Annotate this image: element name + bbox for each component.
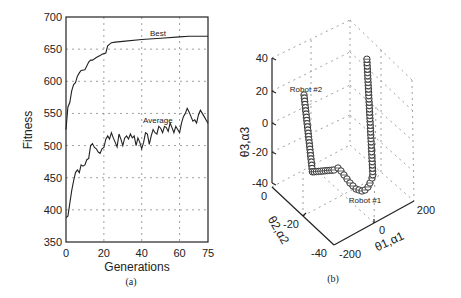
panel-a-y-ticks: 350400450500550600650700 [44, 11, 62, 248]
z-tick-40: 40 [256, 52, 268, 64]
figure: 350400450500550600650700 020406075 Best … [0, 0, 461, 298]
svg-text:40: 40 [136, 247, 148, 259]
average-annotation: Average [143, 116, 173, 125]
svg-text:550: 550 [44, 107, 62, 119]
svg-text:400: 400 [44, 204, 62, 216]
y-tick-neg40: -40 [311, 247, 327, 259]
panel-b-grid [272, 20, 414, 223]
panel-b-3d-trajectory-chart: 40 20 0 -20 -40 0 -20 -40 -200 0 200 θ3,… [238, 20, 435, 285]
x-tick-200: 200 [417, 204, 435, 216]
best-annotation: Best [150, 29, 167, 38]
svg-text:650: 650 [44, 43, 62, 55]
x-tick-0: 0 [379, 224, 385, 236]
svg-text:20: 20 [98, 247, 110, 259]
svg-text:75: 75 [202, 247, 214, 259]
x-axis-label: Generations [104, 260, 169, 274]
z-tick-0: 0 [262, 117, 268, 129]
panel-a-x-ticks: 020406075 [63, 247, 214, 259]
z-tick-neg40: -40 [252, 177, 268, 189]
svg-text:600: 600 [44, 75, 62, 87]
z-axis-label: θ3,α3 [238, 127, 252, 158]
panel-a-grid [66, 17, 208, 242]
panel-b-caption: (b) [327, 273, 339, 285]
svg-text:0: 0 [63, 247, 69, 259]
x-tick-neg200: -200 [339, 248, 361, 260]
z-tick-neg20: -20 [252, 146, 268, 158]
svg-text:450: 450 [44, 172, 62, 184]
panel-a-caption: (a) [125, 276, 136, 288]
svg-text:350: 350 [44, 236, 62, 248]
svg-text:500: 500 [44, 140, 62, 152]
average-series-line [66, 108, 208, 217]
z-tick-20: 20 [256, 85, 268, 97]
x-axis-label-3d: θ1,α1 [373, 228, 407, 254]
best-series-line [66, 36, 208, 129]
svg-text:60: 60 [173, 247, 185, 259]
robot1-annotation: Robot #1 [349, 196, 382, 205]
panel-a-fitness-chart: 350400450500550600650700 020406075 Best … [21, 11, 214, 288]
y-axis-label: Fitness [21, 111, 35, 150]
panel-a-plot-frame [66, 17, 208, 242]
svg-text:700: 700 [44, 11, 62, 23]
trajectory-markers [301, 56, 376, 194]
y-tick-0: 0 [261, 190, 267, 202]
